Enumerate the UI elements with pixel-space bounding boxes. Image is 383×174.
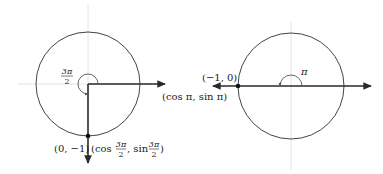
right-coord-label: (cos π, sin π) — [162, 91, 227, 102]
left-point-label: (0, −1) — [54, 143, 89, 154]
svg-text:3π: 3π — [149, 140, 160, 149]
left-angle-label-den: 2 — [64, 77, 69, 86]
right-angle-label: π — [300, 66, 308, 77]
svg-text:2: 2 — [118, 150, 123, 159]
left-angle-label-num: 3π — [62, 67, 73, 76]
svg-text:2: 2 — [151, 150, 156, 159]
svg-text:(cos: (cos — [91, 143, 112, 154]
svg-text:3π: 3π — [116, 140, 127, 149]
left-coord-label: (cos 3π 2 , sin 3π 2 ) — [91, 140, 164, 159]
right-point-label: (−1, 0) — [202, 72, 237, 83]
left-diagram: 3π 2 (0, −1) (cos 3π 2 , sin 3π 2 ) — [18, 4, 165, 163]
svg-text:, sin: , sin — [127, 143, 149, 154]
svg-text:): ) — [160, 143, 164, 154]
left-point-dot — [86, 134, 91, 139]
right-point-dot — [236, 84, 241, 89]
unit-circle-diagrams: 3π 2 (0, −1) (cos 3π 2 , sin 3π 2 ) π (−… — [0, 0, 383, 174]
right-diagram: π (−1, 0) (cos π, sin π) — [162, 22, 371, 170]
